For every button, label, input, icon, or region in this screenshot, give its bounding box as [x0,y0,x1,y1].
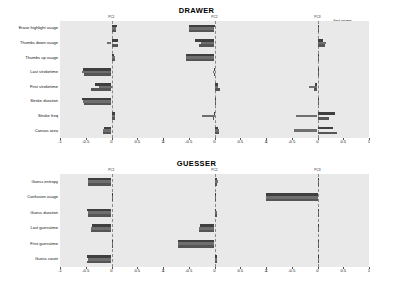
zero-reference-line [215,21,216,138]
panel-title-pc2: PC2 [163,15,266,19]
bar [215,261,218,264]
plot-area [266,21,369,138]
chart-panel-drawer-pc3: PC3 [266,21,369,138]
x-axis-tick-label: 0.5 [340,269,346,273]
x-axis-tick-label: -1 [264,269,268,273]
bar [318,183,319,186]
x-axis-tick-label: 0 [316,269,318,273]
x-axis-ticks: -1-0.500.51 [163,138,266,148]
y-axis-tick-label: Thumbs down usage [1,41,58,45]
bar [318,214,319,217]
bar [214,73,215,76]
y-axis-tick-label: Stroke duration [1,99,58,103]
x-axis-tick-label: 0.5 [237,269,243,273]
bar [215,103,216,106]
chart-panel-guesser-pc3: PC3 [266,174,369,267]
y-axis-tick-label: Guess count [1,257,58,261]
bar [215,183,218,186]
x-axis-tick-label: -1 [58,269,62,273]
plot-area [60,21,163,138]
x-axis-ticks: -1-0.500.51 [266,267,369,277]
bar [91,230,112,233]
x-axis-tick-label: -0.5 [288,269,295,273]
y-axis-tick-label: Last stroketime [1,70,58,74]
y-axis-tick-label: Erase highlight usage [1,26,58,30]
plot-area [163,21,266,138]
bar [318,230,319,233]
y-axis-tick-label: First guesstime [1,242,58,246]
x-axis-tick-label: 1 [368,269,370,273]
x-axis-tick-label: -0.5 [82,140,89,144]
x-axis-tick-label: -0.5 [185,269,192,273]
bar [112,59,115,62]
bar [103,132,111,135]
x-axis-ticks: -1-0.500.51 [163,267,266,277]
x-axis-tick-label: -1 [161,269,165,273]
x-axis-tick-label: 1 [368,140,370,144]
bar [318,127,334,130]
bar [189,30,214,33]
y-axis-tick-label: Guess entropy [1,180,58,184]
y-axis-tick-label: First stroketime [1,85,58,89]
bar [318,103,319,106]
x-axis-tick-label: -0.5 [185,140,192,144]
bar [314,88,317,91]
panel-title-pc1: PC1 [60,168,163,172]
chart-panel-drawer-pc2: PC2 [163,21,266,138]
bar [318,73,319,76]
zero-reference-line [215,174,216,267]
bar [318,132,337,135]
x-axis-tick-label: 0 [316,140,318,144]
bar [112,117,115,120]
bar [318,117,329,120]
x-axis-tick-label: -1 [58,140,62,144]
x-axis-ticks: -1-0.500.51 [60,138,163,148]
bar [318,112,336,115]
panel-title-pc3: PC3 [266,168,369,172]
panel-title-pc1: PC1 [60,15,163,19]
plot-area [163,174,266,267]
x-axis-tick-label: 0 [110,269,112,273]
y-axis-tick-label: Thumbs up usage [1,56,58,60]
bar [215,214,217,217]
panel-title-pc2: PC2 [163,168,266,172]
bar [91,88,112,91]
chart-panel-drawer-pc1: PC1 [60,21,163,138]
x-axis-tick-label: 0 [110,140,112,144]
bar [215,88,220,91]
bar [88,214,112,217]
x-axis-tick-label: 0.5 [134,269,140,273]
y-axis-labels: Erase highlight usageThumbs down usageTh… [0,21,58,138]
bar [186,59,214,62]
plot-area [60,174,163,267]
bar [84,103,111,106]
bar [178,245,215,248]
x-axis-tick-label: -0.5 [82,269,89,273]
bar [112,245,114,248]
bar [318,261,319,264]
bar [88,183,112,186]
y-axis-tick-label: Last guesstime [1,226,58,230]
bar [318,30,319,33]
bar [84,73,111,76]
bar [213,117,215,120]
bar [112,199,113,202]
x-axis-ticks: -1-0.500.51 [60,267,163,277]
bar [215,199,216,202]
y-axis-tick-label: Guess duration [1,211,58,215]
chart-panel-guesser-pc1: PC1 [60,174,163,267]
bar [112,39,119,42]
y-axis-labels: Guess entropyConfusion usageGuess durati… [0,174,58,267]
y-axis-tick-label: Stroke freq [1,114,58,118]
bar [294,129,318,132]
bar [215,132,219,135]
bar [318,245,319,248]
x-axis-tick-label: -1 [264,140,268,144]
bar [112,30,117,33]
bar [318,44,325,47]
chart-panel-guesser-pc2: PC2 [163,174,266,267]
x-axis-tick-label: -1 [161,140,165,144]
plot-area [266,174,369,267]
bar [199,230,214,233]
x-axis-tick-label: 0.5 [237,140,243,144]
